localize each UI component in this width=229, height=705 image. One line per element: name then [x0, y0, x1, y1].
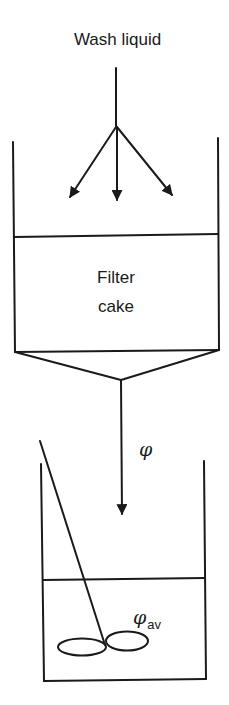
- funnel-outlet: [15, 350, 219, 380]
- filter-cake-label: Filter cake: [14, 263, 218, 321]
- filter-cake-label-line1: Filter: [14, 263, 218, 292]
- filter-cake-label-line2: cake: [14, 292, 218, 321]
- collection-tank: [41, 461, 206, 681]
- process-diagram: [0, 0, 229, 705]
- filtrate-flow-arrow: [121, 380, 122, 514]
- average-concentration-label: φav: [133, 606, 161, 628]
- flow-concentration-label: φ: [139, 438, 152, 460]
- average-concentration-symbol: φ: [133, 606, 146, 628]
- average-concentration-subscript: av: [147, 617, 161, 632]
- wash-liquid-inlet-arrows: [70, 68, 172, 200]
- stirrer: [40, 441, 148, 656]
